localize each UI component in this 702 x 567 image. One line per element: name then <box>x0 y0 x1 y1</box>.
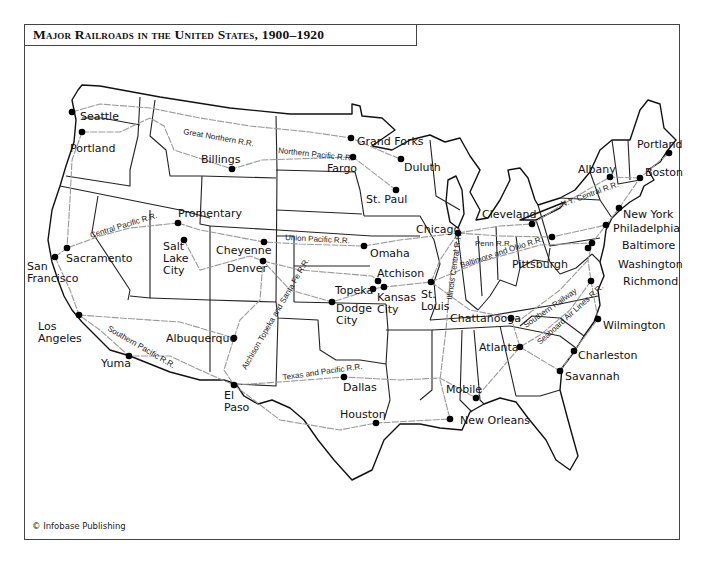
city-label: Wilmington <box>603 319 666 332</box>
city-label: Charleston <box>578 349 638 362</box>
city-dot-icon <box>549 234 556 241</box>
city-dot-icon <box>69 109 76 116</box>
city-label: Yuma <box>100 357 131 370</box>
city-label: Cleveland <box>482 208 537 221</box>
city-label: New Orleans <box>460 414 530 427</box>
city-label: Chicago <box>416 223 460 236</box>
city-dot-icon <box>529 221 536 228</box>
city-dot-icon <box>229 166 236 173</box>
city-chattanooga: Chattanooga <box>450 312 521 325</box>
city-label: Atlanta <box>479 341 518 354</box>
city-chicago: Chicago <box>416 223 461 236</box>
city-topeka: Topeka <box>334 284 376 297</box>
city-philadelphia: Philadelphia <box>603 222 680 235</box>
city-label: Fargo <box>327 162 357 175</box>
city-dot-icon <box>595 316 602 323</box>
city-label: Philadelphia <box>613 222 680 235</box>
city-dot-icon <box>52 254 59 261</box>
city-label: City <box>163 264 185 277</box>
city-label: Francisco <box>27 272 79 285</box>
city-dot-icon <box>175 220 182 227</box>
city-label: Portland <box>637 138 683 151</box>
city-dot-icon <box>571 348 578 355</box>
city-dot-icon <box>637 175 644 182</box>
city-label: St. Paul <box>366 193 407 206</box>
city-label: Albuquerque <box>166 332 237 345</box>
city-savannah: Savannah <box>557 368 620 383</box>
city-label: Pittsburgh <box>512 258 568 271</box>
city-dot-icon <box>428 279 435 286</box>
city-dot-icon <box>616 205 623 212</box>
city-label: Promentary <box>178 207 242 220</box>
city-dot-icon <box>341 374 348 381</box>
city-charleston: Charleston <box>571 348 638 362</box>
city-atlanta: Atlanta <box>479 341 523 354</box>
city-dot-icon <box>588 278 595 285</box>
city-label: Portland <box>70 142 116 155</box>
city-label: Houston <box>340 408 386 421</box>
city-los-angeles: LosAngeles <box>38 312 82 345</box>
city-dot-icon <box>447 416 454 423</box>
city-label: Baltimore <box>622 239 675 252</box>
city-label: Savannah <box>565 370 620 383</box>
city-label: Boston <box>645 166 683 179</box>
copyright-credit: © Infobase Publishing <box>32 521 126 531</box>
city-label: Paso <box>224 401 250 414</box>
city-grand-forks: Grand Forks <box>348 135 424 148</box>
city-dot-icon <box>361 243 368 250</box>
city-albuquerque: Albuquerque <box>166 332 237 345</box>
city-wilmington: Wilmington <box>595 316 666 332</box>
city-yuma: Yuma <box>100 353 132 370</box>
city-dot-icon <box>231 382 238 389</box>
city-new-orleans: New Orleans <box>447 414 531 427</box>
city-dot-icon <box>381 284 388 291</box>
city-label: Duluth <box>404 161 441 174</box>
city-label: Grand Forks <box>357 135 424 148</box>
city-label: Seattle <box>80 110 119 123</box>
city-dot-icon <box>585 245 592 252</box>
city-dot-icon <box>76 312 83 319</box>
city-label: Richmond <box>623 275 678 288</box>
city-label: Atchison <box>377 267 424 280</box>
us-railroad-map: Great Northern R.R.Northern Pacific R.R.… <box>0 0 702 567</box>
city-label: Denver <box>227 262 267 275</box>
city-dot-icon <box>329 299 336 306</box>
city-label: Topeka <box>334 284 373 297</box>
city-dot-icon <box>350 154 357 161</box>
city-dot-icon <box>603 222 610 229</box>
city-label: Angeles <box>38 332 82 345</box>
map-title: Major Railroads in the United States, 19… <box>33 27 324 43</box>
city-label: Dallas <box>343 381 377 394</box>
city-label: Omaha <box>370 247 410 260</box>
city-dot-icon <box>348 135 355 142</box>
city-label: Billings <box>201 153 241 166</box>
city-label: Cheyenne <box>216 244 272 257</box>
city-label: Albany <box>578 163 616 176</box>
city-label: Louis <box>421 300 450 313</box>
city-label: City <box>377 303 399 316</box>
city-label: New York <box>623 208 674 221</box>
city-label: Mobile <box>446 383 482 396</box>
city-dot-icon <box>79 129 86 136</box>
city-label: Chattanooga <box>450 312 521 325</box>
city-label: City <box>336 314 358 327</box>
city-label: Washington <box>618 258 683 271</box>
city-dot-icon <box>64 245 71 252</box>
city-dot-icon <box>557 368 564 375</box>
map-title-box: Major Railroads in the United States, 19… <box>24 24 417 46</box>
city-label: Sacramento <box>66 252 133 265</box>
city-new-york: New York <box>616 205 674 221</box>
